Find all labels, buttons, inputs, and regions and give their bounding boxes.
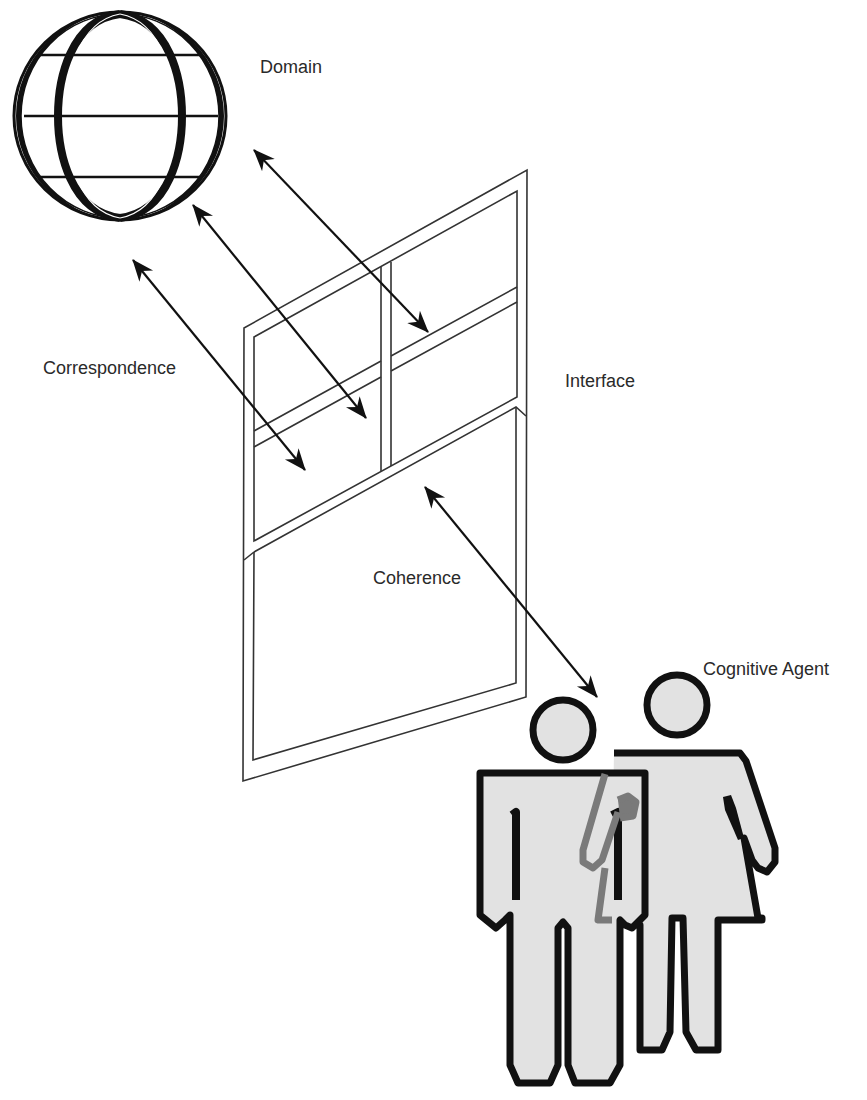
label-domain: Domain bbox=[260, 57, 322, 77]
label-correspondence: Correspondence bbox=[43, 358, 176, 378]
label-interface: Interface bbox=[565, 371, 635, 391]
label-coherence: Coherence bbox=[373, 568, 461, 588]
globe-icon bbox=[14, 12, 226, 220]
diagram-canvas: Domain Correspondence Interface Coherenc… bbox=[0, 0, 867, 1100]
label-cognitive-agent: Cognitive Agent bbox=[703, 659, 829, 679]
window-icon bbox=[243, 170, 527, 781]
